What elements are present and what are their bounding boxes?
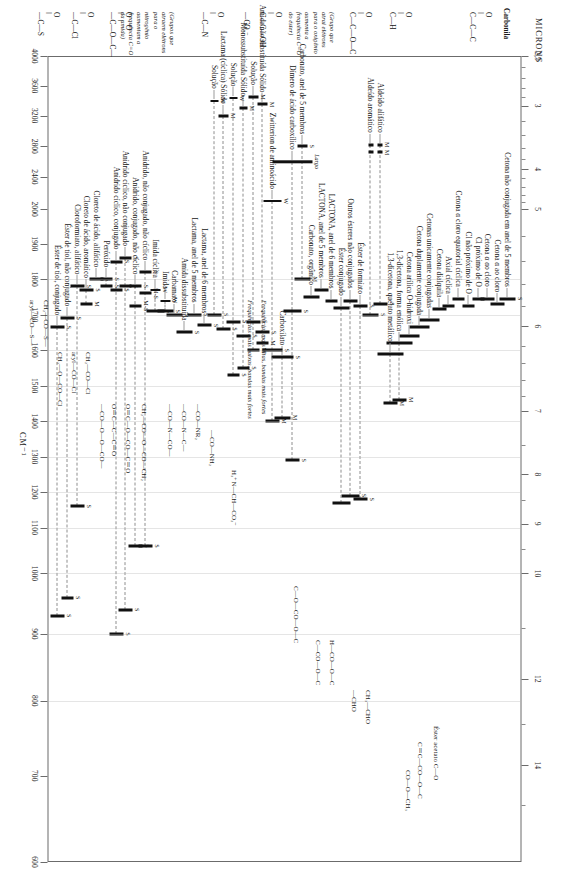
absorption-band: [353, 498, 367, 501]
band-row-label: 1,3-dicetona, forma enólica: [395, 250, 404, 331]
cm-tick-label: 1100: [29, 520, 38, 535]
band-row-connector: [301, 135, 302, 144]
absorption-band: [50, 326, 64, 329]
micron-minor-tick: [521, 236, 525, 237]
plot-gridline: [47, 634, 521, 635]
band-intensity-tag: M: [259, 94, 266, 100]
band-row-tieline: [349, 301, 350, 496]
micron-minor-tick: [521, 135, 525, 136]
band-row-connector: [310, 286, 311, 295]
cm-tick-label: 3200: [29, 108, 38, 123]
cm-tick: [40, 177, 47, 178]
formula-caption-peroxide: —CO—O—O—CO—: [97, 404, 105, 469]
band-row-label: Éster conjugado: [336, 248, 345, 296]
cm-tick: [40, 421, 47, 422]
micron-tick-label: 12: [532, 675, 541, 683]
cm-tick-label: 1900: [29, 236, 38, 251]
band-row-connector: [124, 247, 125, 256]
cm-tick: [40, 279, 47, 280]
band-row-connector: [349, 290, 350, 299]
band-row-label: Cetona α ao cloro: [493, 240, 502, 293]
band-row-label: Outros ésteres não conjugados: [346, 198, 355, 288]
micron-tick: [521, 679, 528, 680]
band-intensity-tag: M: [269, 340, 276, 346]
structure-thiol-ester: O‖—C—S: [36, 12, 59, 36]
band-intensity-tag: Largo: [313, 154, 320, 169]
band-row-connector: [232, 87, 233, 96]
plot-gridline: [47, 350, 521, 351]
structure-carboxylate: —CO₂⁻: [241, 12, 249, 36]
micron-tick: [521, 326, 528, 327]
micron-minor-tick: [521, 380, 525, 381]
absorption-band: [333, 306, 349, 309]
absorption-band: [227, 374, 239, 377]
bottom-axis-title: CM⁻¹: [17, 432, 27, 456]
micron-tick: [521, 209, 528, 210]
micron-minor-tick: [521, 628, 525, 629]
absorption-band: [60, 317, 74, 320]
band-row-label: Aldeído aromático: [366, 78, 375, 133]
band-row-label: Solução: [209, 65, 218, 89]
micron-minor-tick: [521, 549, 525, 550]
micron-tick: [521, 573, 528, 574]
band-row-label: Peróxido: [101, 241, 110, 268]
absorption-band: [79, 288, 93, 291]
band-row-label: Solução: [248, 61, 257, 85]
band-intensity-tag: S: [132, 285, 139, 288]
band-row-label: 1,3-dicetona, quelato metálico: [385, 252, 394, 341]
formula-caption-anhyd-b: O＝C—O—CO—C＝O: [123, 404, 133, 473]
absorption-band: [343, 299, 357, 302]
band-row-tieline: [232, 98, 233, 375]
band-intensity-tag: S: [142, 285, 149, 288]
micron-minor-tick: [521, 363, 525, 364]
micron-tick-label: 9: [532, 522, 541, 526]
formula-caption-thio-b: aryl—CO—S—: [27, 300, 35, 346]
micron-minor-tick: [521, 500, 525, 501]
band-row-label: Anidrido, não conjugado, não cíclico: [141, 151, 150, 261]
band-row-label: Lactama, anel de 6 membros: [199, 228, 208, 313]
band-row-tieline: [389, 354, 390, 404]
band-row-label: Éster de formiato: [356, 243, 365, 294]
band-intensity-tag: S: [308, 145, 315, 148]
band-row-connector: [144, 261, 145, 270]
micron-minor-tick: [521, 178, 525, 179]
band-intensity-tag: S: [132, 256, 139, 259]
cm-tick-label: 2800: [29, 139, 38, 154]
absorption-band: [197, 324, 211, 327]
band-intensity-tag: S: [360, 494, 367, 497]
band-row-connector: [271, 190, 272, 199]
band-intensity-tag: S: [94, 288, 101, 291]
band-intensity-tag: M: [93, 301, 100, 307]
absorption-band: [50, 614, 64, 617]
absorption-band: [61, 596, 73, 599]
micron-tick-label: 7: [532, 409, 541, 413]
cm-tick: [40, 573, 47, 574]
band-intensity-tag: S: [193, 331, 200, 334]
micron-minor-tick: [521, 67, 525, 68]
cm-tick: [40, 634, 47, 635]
absorption-band: [490, 303, 504, 306]
band-intensity-tag: S: [65, 325, 72, 328]
band-intensity-tag: W: [219, 98, 226, 104]
plot-gridline: [47, 492, 521, 493]
absorption-band: [271, 356, 293, 359]
band-row-label: Cl não próximo de O: [463, 231, 472, 293]
absorption-band: [118, 608, 132, 611]
absorption-band: [432, 308, 446, 311]
formula-caption-chl-a: CH₂—CO—Cl: [83, 352, 91, 395]
band-row-connector: [115, 251, 116, 260]
band-row-connector: [222, 105, 223, 114]
micron-minor-tick: [521, 724, 525, 725]
band-intensity-tag: M-S: [152, 288, 159, 299]
band-intensity-tag: M-S: [142, 300, 149, 311]
absorption-band: [472, 297, 484, 300]
micron-minor-tick: [521, 159, 525, 160]
band-row-label: Carbonato, anel de 5 membros: [297, 44, 306, 135]
band-row-label: Cetona α cloro equatorial cíclica: [454, 191, 463, 287]
absorption-band: [325, 299, 337, 302]
micron-tick-label: 3: [532, 104, 541, 108]
absorption-band: [128, 544, 142, 547]
cm-tick: [40, 701, 47, 702]
absorption-band: [248, 96, 258, 99]
band-row-tieline: [281, 357, 282, 417]
